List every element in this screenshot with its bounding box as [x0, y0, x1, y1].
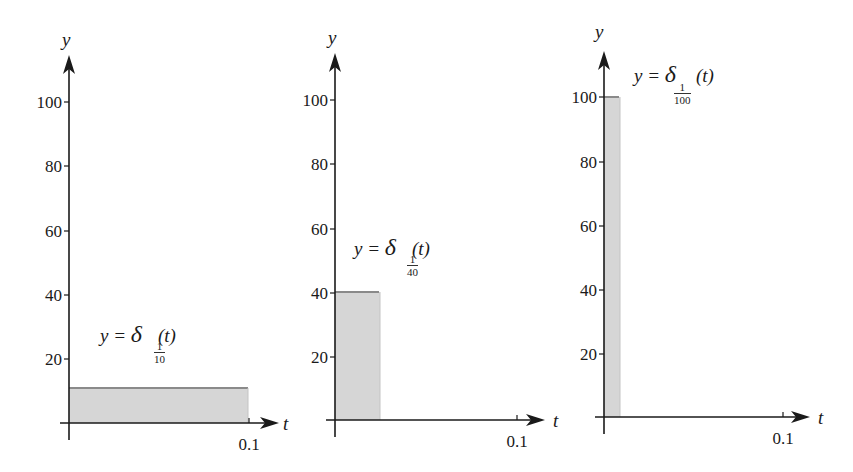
y-tick-label: 60	[557, 218, 597, 235]
y-tick-label: 80	[557, 154, 597, 171]
subscript-fraction-3: 1100	[674, 82, 691, 106]
x-tick-label: 0.1	[763, 430, 803, 447]
chart-3-graphics	[0, 0, 853, 472]
y-axis-label-3: y	[595, 22, 603, 41]
pulse-bar-3	[604, 97, 620, 417]
y-tick-label: 20	[557, 346, 597, 363]
y-tick-label: 100	[557, 89, 597, 106]
y-tick-label: 40	[557, 282, 597, 299]
t-axis-label-3: t	[818, 408, 823, 427]
